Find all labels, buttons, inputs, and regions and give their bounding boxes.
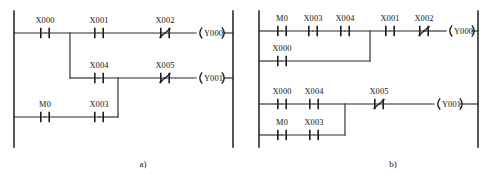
ladder-diagram-figure: X000X001X002Y000X004X005Y001M0X003a)M0X0… [0, 0, 493, 180]
diagram-a-caption: a) [140, 159, 147, 169]
diagram-a-contact-m0-0-label: M0 [39, 100, 51, 109]
diagram-b-coil-y001: Y001 [438, 98, 462, 109]
diagram-b-contact-x004-2: X004 [335, 14, 355, 36]
diagram-b-contact-m0-0: M0 [276, 14, 288, 36]
diagram-b-contact-x004-2-label: X004 [335, 14, 355, 23]
diagram-b-contact-x004-1-label: X004 [304, 87, 324, 96]
diagram-b-contact-x000-0-label: X000 [272, 87, 291, 96]
diagram-a-contact-x004-0-label: X004 [89, 61, 109, 70]
ladder-canvas: X000X001X002Y000X004X005Y001M0X003a)M0X0… [0, 0, 493, 180]
diagram-a-coil-y001-left-paren [200, 72, 202, 83]
diagram-a-rung-a-1: X000X001X002Y000 [35, 16, 224, 39]
diagram-b-contact-x005-2: X005 [369, 87, 388, 109]
diagram-a-contact-x001-1: X001 [89, 16, 108, 38]
diagram-b: M0X003X004X001X002Y000X000X000X004X005Y0… [259, 11, 478, 169]
diagram-b-caption: b) [389, 159, 397, 169]
diagram-b-rung-b-4: M0X003 [276, 118, 324, 140]
diagram-a-contact-x004-0: X004 [89, 61, 109, 83]
diagram-b-contact-x005-2-label: X005 [369, 87, 388, 96]
diagram-b-contact-x000-0-label: X000 [272, 44, 291, 53]
diagram-a-coil-y000-label: Y000 [204, 29, 223, 38]
diagram-a-contact-x005-1: X005 [155, 61, 174, 83]
diagram-b-coil-y001-label: Y001 [442, 100, 461, 109]
diagram-b-contact-x002-4-label: X002 [414, 14, 433, 23]
diagram-b-contact-m0-0: M0 [276, 118, 288, 140]
diagram-a-contact-x002-2-label: X002 [155, 16, 174, 25]
diagram-b-rung-b-3: X000X004X005Y001 [272, 87, 462, 110]
diagram-b-contact-m0-0-label: M0 [276, 118, 288, 127]
diagram-b-contact-m0-0-label: M0 [276, 14, 288, 23]
diagram-b-coil-y001-left-paren [438, 98, 440, 109]
diagram-b-coil-y000-left-paren [450, 25, 452, 36]
diagram-a-coil-y001-label: Y001 [204, 74, 223, 83]
diagram-b-contact-x000-0: X000 [272, 44, 291, 66]
diagram-b-contact-x003-1: X003 [303, 14, 322, 36]
diagram-b-contact-x001-3-label: X001 [380, 14, 399, 23]
diagram-a-coil-y001: Y001 [200, 72, 224, 83]
diagram-a-contact-x002-2: X002 [155, 16, 174, 38]
diagram-a-contact-x003-1-label: X003 [89, 100, 108, 109]
diagram-b-contact-x003-1: X003 [304, 118, 323, 140]
diagram-a-contact-x000-0: X000 [35, 16, 54, 38]
diagram-a-contact-x000-0-label: X000 [35, 16, 54, 25]
diagram-a-rung-a-3: M0X003 [39, 100, 109, 122]
diagram-a: X000X001X002Y000X004X005Y001M0X003a) [14, 11, 233, 169]
diagram-a-contact-x001-1-label: X001 [89, 16, 108, 25]
diagram-b-contact-x001-3: X001 [380, 14, 399, 36]
diagram-b-contact-x004-1: X004 [304, 87, 324, 109]
diagram-a-contact-x005-1-label: X005 [155, 61, 174, 70]
diagram-b-contact-x002-4: X002 [414, 14, 433, 36]
diagram-b-coil-y000: Y000 [450, 25, 474, 36]
diagram-a-rung-a-2: X004X005Y001 [89, 61, 224, 84]
diagram-a-contact-x003-1: X003 [89, 100, 108, 122]
diagram-b-coil-y000-label: Y000 [454, 27, 473, 36]
diagram-a-coil-y000: Y000 [200, 27, 224, 38]
diagram-a-contact-m0-0: M0 [39, 100, 51, 122]
diagram-b-rung-b-1: M0X003X004X001X002Y000 [276, 14, 474, 37]
diagram-b-contact-x003-1-label: X003 [304, 118, 323, 127]
diagram-a-coil-y000-left-paren [200, 27, 202, 38]
diagram-b-contact-x000-0: X000 [272, 87, 291, 109]
diagram-b-contact-x003-1-label: X003 [303, 14, 322, 23]
diagram-container: X000X001X002Y000X004X005Y001M0X003a)M0X0… [0, 0, 493, 180]
diagram-b-rung-b-2: X000 [272, 44, 291, 66]
